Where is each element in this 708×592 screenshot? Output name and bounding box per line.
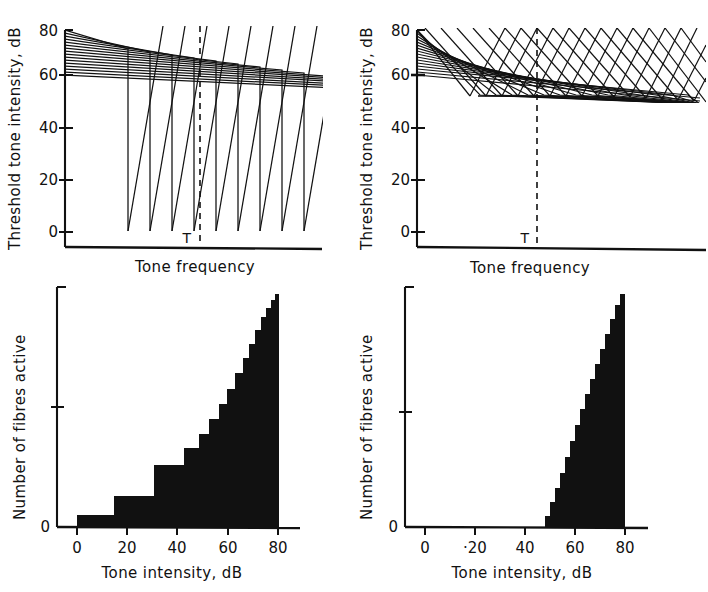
top-left-xlabel: Tone frequency (134, 258, 255, 276)
figure-svg: Threshold tone intensity, dB 0 20 40 60 … (0, 0, 708, 592)
panel-bottom-left: Number of fibres active 0 0 20 40 60 80 (11, 287, 300, 582)
bottom-left-xtick-60: 60 (218, 539, 237, 557)
bottom-left-xtick-40: 40 (167, 539, 186, 557)
top-right-ytick-60: 60 (391, 66, 410, 84)
top-right-tuning-curves (417, 28, 706, 104)
top-right-ytick-20: 20 (391, 171, 410, 189)
top-left-marker-label: T (181, 230, 191, 246)
bottom-left-ylabel: Number of fibres active (11, 334, 29, 520)
bottom-right-xtick-40: 40 (515, 539, 534, 557)
bottom-right-xtick-20: ·20 (463, 539, 487, 557)
bottom-right-ylabel: Number of fibres active (358, 334, 376, 520)
bottom-left-ytick-0: 0 (40, 518, 50, 536)
top-left-ytick-20: 20 (39, 171, 58, 189)
bottom-left-histogram (77, 294, 279, 527)
top-right-ytick-0: 0 (400, 223, 410, 241)
bottom-left-xtick-80: 80 (268, 539, 287, 557)
panel-top-left: Threshold tone intensity, dB 0 20 40 60 … (6, 22, 458, 276)
top-left-ytick-80: 80 (39, 22, 58, 40)
top-left-ylabel: Threshold tone intensity, dB (6, 27, 24, 251)
top-right-ylabel: Threshold tone intensity, dB (358, 27, 376, 251)
top-right-ytick-80: 80 (391, 22, 410, 40)
top-left-ytick-0: 0 (48, 223, 58, 241)
bottom-right-xlabel: Tone intensity, dB (451, 564, 593, 582)
bottom-left-xlabel: Tone intensity, dB (101, 564, 243, 582)
bottom-right-xtick-0: 0 (420, 539, 430, 557)
figure-panel-grid: Threshold tone intensity, dB 0 20 40 60 … (0, 0, 708, 592)
top-right-ytick-40: 40 (391, 119, 410, 137)
top-left-ytick-40: 40 (39, 119, 58, 137)
bottom-right-ytick-0: 0 (388, 518, 398, 536)
bottom-right-xtick-80: 80 (615, 539, 634, 557)
top-left-ytick-60: 60 (39, 66, 58, 84)
top-right-xlabel: Tone frequency (469, 259, 590, 277)
bottom-right-histogram (545, 294, 625, 527)
top-right-marker-label: T (519, 230, 529, 246)
panel-bottom-right: Number of fibres active 0 0 ·20 40 60 80… (358, 287, 648, 582)
bottom-right-xtick-60: 60 (565, 539, 584, 557)
bottom-left-xtick-0: 0 (72, 539, 82, 557)
panel-top-right: Threshold tone intensity, dB 0 20 40 60 … (358, 22, 706, 277)
bottom-left-xtick-20: 20 (117, 539, 136, 557)
